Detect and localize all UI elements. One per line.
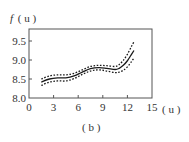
x-axis-title: ( u ) [162, 103, 181, 116]
y-tick-label: 9.0 [12, 54, 26, 66]
x-tick-label: 0 [26, 101, 32, 113]
y-tick-label: 8.0 [12, 92, 26, 104]
x-tick-label: 3 [51, 101, 57, 113]
y-axis-func: f [10, 12, 15, 24]
x-tick-label: 9 [100, 101, 106, 113]
x-tick-label: 12 [122, 101, 133, 113]
chart: f ( u ) 8.08.59.09.5 03691215 ( u ) ( b … [0, 0, 189, 142]
series-group [41, 42, 134, 86]
y-axis-title: f ( u ) [10, 12, 36, 25]
y-tick-label: 8.5 [12, 73, 26, 85]
series-line-estimate [41, 51, 134, 83]
figure-caption: ( b ) [82, 121, 101, 134]
y-axis-arg: ( u ) [18, 12, 37, 25]
y-tick-label: 9.5 [12, 35, 26, 47]
x-tick-label: 6 [75, 101, 81, 113]
plot-frame [29, 29, 152, 98]
x-tick-label: 15 [147, 101, 159, 113]
series-line-upper-band [41, 42, 134, 79]
series-line-lower-band [41, 58, 134, 85]
